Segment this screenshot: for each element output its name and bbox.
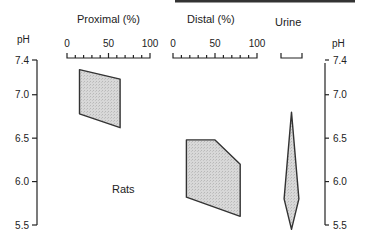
y-tick-label-left: 7.0: [15, 89, 29, 100]
x-tick-label: 0: [64, 38, 70, 49]
x-tick-label: 0: [170, 38, 176, 49]
y-axis-label-left: pH: [17, 34, 30, 45]
panel-title-urine: Urine: [275, 16, 301, 28]
ph-chart: Proximal (%) Distal (%) Urine pH pH 7.47…: [0, 0, 366, 245]
y-tick-label-left: 5.5: [15, 220, 29, 231]
y-tick-label-right: 6.0: [333, 176, 347, 187]
x-tick-label: 50: [103, 38, 115, 49]
y-tick-label-right: 7.0: [333, 89, 347, 100]
x-tick-label: 50: [209, 38, 221, 49]
x-scale-2: [281, 53, 302, 58]
y-tick-label-left: 7.4: [15, 55, 29, 66]
x-tick-label: 100: [142, 38, 159, 49]
y-tick-label-left: 6.5: [15, 133, 29, 144]
region-proximal: [80, 70, 121, 128]
annotation-rats: Rats: [112, 183, 135, 195]
y-tick-label-right: 6.5: [333, 133, 347, 144]
y-tick-label-right: 7.4: [333, 55, 347, 66]
panel-title-distal: Distal (%): [187, 13, 235, 25]
x-tick-label: 100: [249, 38, 266, 49]
regions-group: [80, 70, 299, 230]
y-tick-label-right: 5.5: [333, 220, 347, 231]
region-distal: [186, 140, 240, 216]
y-tick-label-left: 6.0: [15, 176, 29, 187]
region-urine: [284, 112, 299, 229]
y-axis-label-right: pH: [332, 38, 345, 49]
panel-title-proximal: Proximal (%): [77, 13, 140, 25]
top-rule: [175, 0, 355, 3]
